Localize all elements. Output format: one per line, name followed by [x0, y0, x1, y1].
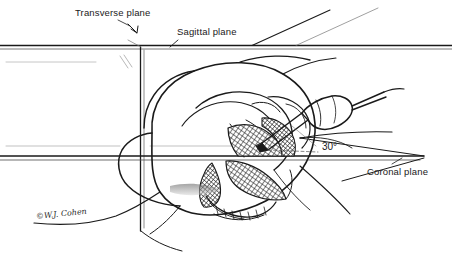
sagittal-plane-label: Sagittal plane [177, 27, 237, 37]
angle-label: 30° [322, 142, 337, 152]
sagittal-plane-geometry [118, 20, 144, 231]
coronal-plane-label: Coronal plane [367, 167, 428, 177]
transverse-plane-label: Transverse plane [75, 8, 150, 18]
figure-line-art [0, 0, 452, 259]
lower-hatched-structure [200, 161, 293, 207]
anatomical-figure: Transverse plane Sagittal plane Coronal … [0, 0, 452, 259]
